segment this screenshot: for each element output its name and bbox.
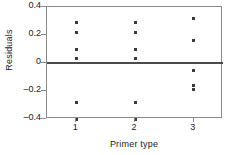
- y-axis-title: Residuals: [4, 10, 14, 90]
- y-axis-tick-label-text: 0.4: [3, 1, 41, 10]
- data-point: [134, 21, 137, 24]
- x-axis-tick-label: 2: [124, 123, 144, 132]
- x-axis-title: Primer type: [46, 139, 222, 149]
- data-point: [75, 31, 78, 34]
- y-axis-tick-label: –0.4: [0, 113, 41, 123]
- y-axis-tick-label-text: –0.2: [3, 85, 41, 94]
- y-axis-tick-label-text: 0: [3, 57, 41, 66]
- y-axis-tick-label: –0.2: [0, 85, 41, 95]
- data-point: [134, 31, 137, 34]
- data-point: [75, 48, 78, 51]
- data-point: [192, 84, 195, 87]
- residuals-scatter-chart: Residuals 0.40.20–0.2–0.4 123 Primer typ…: [0, 0, 231, 155]
- y-axis-tick-label-text: 0.2: [3, 29, 41, 38]
- x-axis-tick-label: 3: [183, 123, 203, 132]
- y-axis-tick-label: 0.4: [0, 1, 41, 11]
- y-axis-tick-label: 0.2: [0, 29, 41, 39]
- y-axis-tick: [41, 118, 46, 119]
- data-point: [134, 48, 137, 51]
- data-point: [75, 57, 78, 60]
- x-axis-tick-label: 1: [65, 123, 85, 132]
- plot-area: [46, 6, 222, 118]
- data-point: [192, 17, 195, 20]
- data-point: [192, 69, 195, 72]
- data-point: [192, 39, 195, 42]
- data-point: [75, 101, 78, 104]
- zero-reference-line: [47, 62, 223, 64]
- data-point: [75, 21, 78, 24]
- y-axis-tick-label-text: –0.4: [3, 113, 41, 122]
- data-point: [134, 101, 137, 104]
- data-point: [134, 57, 137, 60]
- y-axis-tick-label: 0: [0, 57, 41, 67]
- data-point: [192, 88, 195, 91]
